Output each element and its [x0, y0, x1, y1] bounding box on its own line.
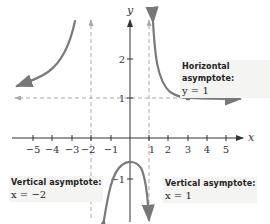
- svg-text:5: 5: [223, 144, 229, 155]
- svg-text:−2: −2: [81, 144, 96, 155]
- vertical-asymptote-neg2-annotation: Vertical asymptote: x = −2: [9, 176, 103, 202]
- middle-branch-curve: [104, 162, 149, 220]
- svg-text:−1: −1: [104, 144, 119, 155]
- annotation-equation: x = −2: [11, 189, 101, 201]
- left-branch-curve: [17, 21, 75, 86]
- annotation-title: Horizontal asymptote:: [182, 61, 268, 85]
- annotation-equation: x = 1: [165, 190, 255, 202]
- svg-text:4: 4: [204, 144, 210, 155]
- annotation-title: Vertical asymptote:: [165, 178, 255, 190]
- svg-text:2: 2: [119, 54, 125, 65]
- x-axis-label: x: [248, 131, 255, 144]
- horizontal-asymptote-annotation: Horizontal asymptote: y = 1: [180, 60, 270, 98]
- svg-text:−3: −3: [65, 144, 80, 155]
- svg-text:2: 2: [165, 144, 171, 155]
- y-axis-label: y: [126, 4, 134, 17]
- svg-text:1: 1: [119, 93, 125, 104]
- rational-function-graph: −5 −4 −3 −2 −1 1 2 3 4 5 2 1 −1 y x Hori…: [0, 0, 270, 224]
- svg-text:−4: −4: [45, 144, 60, 155]
- svg-text:3: 3: [185, 144, 191, 155]
- vertical-asymptote-1-annotation: Vertical asymptote: x = 1: [163, 177, 257, 203]
- annotation-title: Vertical asymptote:: [11, 177, 101, 189]
- svg-text:−5: −5: [26, 144, 41, 155]
- annotation-equation: y = 1: [182, 85, 268, 97]
- svg-text:1: 1: [149, 144, 155, 155]
- x-tick-labels: −5 −4 −3 −2 −1 1 2 3 4 5: [26, 144, 230, 155]
